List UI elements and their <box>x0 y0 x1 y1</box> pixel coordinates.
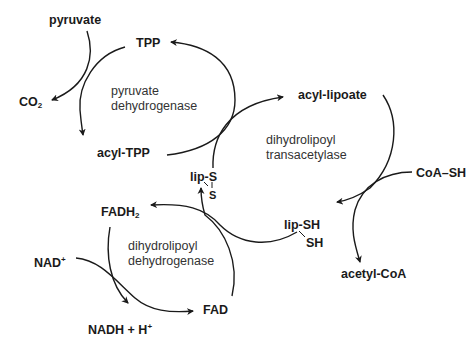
enzyme-dihydrolipoyl-dehydrogenase: dihydrolipoyl dehydrogenase <box>128 239 214 269</box>
label-nadh: NADH + H+ <box>88 320 152 337</box>
enzyme-line-2: dehydrogenase <box>128 254 214 269</box>
co2-text: CO <box>19 95 38 109</box>
label-sh: SH <box>306 236 323 250</box>
label-acyl-tpp: acyl-TPP <box>97 146 150 160</box>
label-pyruvate: pyruvate <box>49 13 101 27</box>
label-fadh2: FADH2 <box>101 205 139 223</box>
fadh2-text: FADH <box>101 205 135 219</box>
enzyme-line-2: transacetylase <box>266 148 347 163</box>
enzyme-pyruvate-dehydrogenase: pyruvate dehydrogenase <box>111 84 197 114</box>
co2-subscript: 2 <box>38 101 42 110</box>
enzyme-line-1: pyruvate <box>111 84 197 99</box>
bond-lip-sh <box>298 230 308 238</box>
label-fad: FAD <box>203 303 228 317</box>
arc-pyruvate-to-co2 <box>52 31 90 100</box>
label-coa-sh: CoA–SH <box>416 166 466 180</box>
label-acyl-lipoate: acyl-lipoate <box>298 88 367 102</box>
label-nad: NAD+ <box>34 253 66 270</box>
fadh2-subscript: 2 <box>135 211 139 220</box>
nadh-text: NADH + H <box>88 323 147 337</box>
nad-text: NAD <box>34 256 61 270</box>
reaction-arrows <box>0 0 475 347</box>
arc-coa-sh-to-acetyl-coa <box>353 172 412 262</box>
nadh-superscript: + <box>147 322 152 331</box>
arc-fadh2-to-nadh <box>108 227 128 303</box>
enzyme-line-1: dihydrolipoyl <box>128 239 214 254</box>
enzyme-dihydrolipoyl-transacetylase: dihydrolipoyl transacetylase <box>266 133 347 163</box>
label-tpp: TPP <box>136 36 160 50</box>
nad-superscript: + <box>61 255 66 264</box>
enzyme-line-1: dihydrolipoyl <box>266 133 347 148</box>
bond-disulfide <box>203 181 217 191</box>
enzyme-line-2: dehydrogenase <box>111 99 197 114</box>
label-acetyl-coa: acetyl-CoA <box>341 267 406 281</box>
label-co2: CO2 <box>19 95 42 113</box>
